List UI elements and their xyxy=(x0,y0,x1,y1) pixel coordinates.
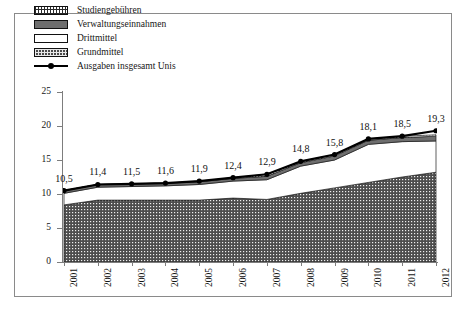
legend-swatch-white-icon xyxy=(34,34,68,43)
data-point-label: 11,9 xyxy=(191,163,208,174)
x-axis-tick xyxy=(368,262,369,266)
plot-area xyxy=(63,92,437,262)
chart-legend: Studiengebühren Verwaltungseinnahmen Dri… xyxy=(34,3,294,73)
x-axis-tick xyxy=(267,262,268,266)
legend-label-ausgaben-insgesamt-unis: Ausgaben insgesamt Unis xyxy=(77,61,176,72)
data-point-label: 15,8 xyxy=(326,137,344,148)
data-point-marker xyxy=(129,181,134,186)
x-axis-tick-label: 2009 xyxy=(340,268,350,287)
y-axis-tick xyxy=(57,228,62,229)
x-axis-tick xyxy=(402,262,403,266)
data-point-marker xyxy=(163,181,168,186)
y-axis-tick-label: 25 xyxy=(31,86,51,96)
data-point-marker xyxy=(298,159,303,164)
x-axis-tick xyxy=(199,262,200,266)
x-axis-tick xyxy=(436,262,437,266)
x-axis-tick xyxy=(132,262,133,266)
y-axis-tick xyxy=(57,194,62,195)
x-axis-tick-label: 2004 xyxy=(170,268,180,287)
data-point-marker xyxy=(332,152,337,157)
legend-label-studiengebuehren: Studiengebühren xyxy=(77,5,141,16)
x-axis-tick-label: 2005 xyxy=(204,268,214,287)
data-point-marker xyxy=(433,128,437,133)
x-axis-tick-label: 2008 xyxy=(306,268,316,287)
legend-label-drittmittel: Drittmittel xyxy=(77,33,117,44)
legend-item-drittmittel: Drittmittel xyxy=(34,31,294,45)
x-axis-tick-label: 2012 xyxy=(441,268,451,287)
legend-swatch-solid-gray-icon xyxy=(34,20,68,29)
legend-label-verwaltungseinnahmen: Verwaltungseinnahmen xyxy=(77,19,166,30)
x-axis-tick xyxy=(335,262,336,266)
x-axis-tick-label: 2007 xyxy=(272,268,282,287)
x-axis-tick xyxy=(98,262,99,266)
data-point-label: 12,4 xyxy=(224,160,242,171)
x-axis-tick-label: 2001 xyxy=(69,268,79,287)
x-axis-tick xyxy=(233,262,234,266)
data-point-marker xyxy=(264,172,269,177)
stacked-areas xyxy=(64,135,436,262)
legend-item-verwaltungseinnahmen: Verwaltungseinnahmen xyxy=(34,17,294,31)
x-axis-tick-label: 2006 xyxy=(238,268,248,287)
data-point-label: 18,5 xyxy=(393,118,411,129)
x-axis-tick-label: 2003 xyxy=(137,268,147,287)
y-axis-tick xyxy=(57,92,62,93)
x-axis-tick-label: 2010 xyxy=(373,268,383,287)
chart-svg xyxy=(63,92,437,262)
data-point-label: 18,1 xyxy=(360,121,378,132)
data-point-label: 11,6 xyxy=(157,165,174,176)
y-axis-tick-label: 0 xyxy=(31,256,51,266)
x-axis-tick-label: 2002 xyxy=(103,268,113,287)
legend-swatch-line-marker-icon xyxy=(34,62,68,71)
y-axis-tick-label: 5 xyxy=(31,222,51,232)
y-axis-tick-label: 15 xyxy=(31,154,51,164)
legend-item-ausgaben-insgesamt-unis: Ausgaben insgesamt Unis xyxy=(34,59,294,73)
data-point-marker xyxy=(197,178,202,183)
data-point-label: 14,8 xyxy=(292,143,310,154)
x-axis-tick xyxy=(165,262,166,266)
legend-swatch-hatched-white-icon xyxy=(34,6,68,15)
chart-figure: Studiengebühren Verwaltungseinnahmen Dri… xyxy=(0,0,467,314)
y-axis-tick xyxy=(57,160,62,161)
y-axis-tick xyxy=(57,262,62,263)
y-axis-tick-label: 10 xyxy=(31,188,51,198)
y-axis-tick xyxy=(57,126,62,127)
data-point-marker xyxy=(230,175,235,180)
data-point-label: 19,3 xyxy=(427,113,445,124)
legend-swatch-dotted-dark-icon xyxy=(34,48,68,57)
legend-item-studiengebuehren: Studiengebühren xyxy=(34,3,294,17)
y-axis-tick-label: 20 xyxy=(31,120,51,130)
legend-item-grundmittel: Grundmittel xyxy=(34,45,294,59)
x-axis-tick-label: 2011 xyxy=(407,268,417,287)
data-point-label: 11,5 xyxy=(123,166,140,177)
data-point-label: 12,9 xyxy=(258,156,276,167)
data-point-label: 11,4 xyxy=(89,166,106,177)
legend-label-grundmittel: Grundmittel xyxy=(77,47,123,58)
x-axis-tick xyxy=(301,262,302,266)
data-point-marker xyxy=(95,182,100,187)
x-axis-tick xyxy=(64,262,65,266)
data-point-marker xyxy=(366,136,371,141)
data-point-label: 10,5 xyxy=(55,173,73,184)
x-axis-line xyxy=(62,262,438,263)
data-point-marker xyxy=(400,134,405,139)
